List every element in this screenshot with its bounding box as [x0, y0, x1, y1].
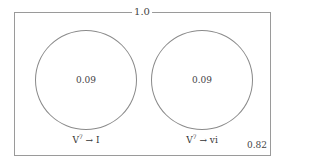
- universe-label: 1.0: [132, 5, 152, 18]
- set-value-v7-to-i: 0.09: [76, 75, 96, 86]
- set-label-v7-to-i: V7 → I: [72, 135, 99, 146]
- label-superscript: 7: [193, 133, 197, 140]
- label-target: I: [96, 135, 100, 145]
- arrow-icon: →: [199, 135, 207, 145]
- outside-value: 0.82: [247, 140, 267, 151]
- set-value-v7-to-vi: 0.09: [192, 75, 212, 86]
- set-label-v7-to-vi: V7 → vi: [186, 135, 218, 146]
- label-superscript: 7: [79, 133, 83, 140]
- arrow-icon: →: [86, 135, 94, 145]
- label-target: vi: [210, 135, 218, 145]
